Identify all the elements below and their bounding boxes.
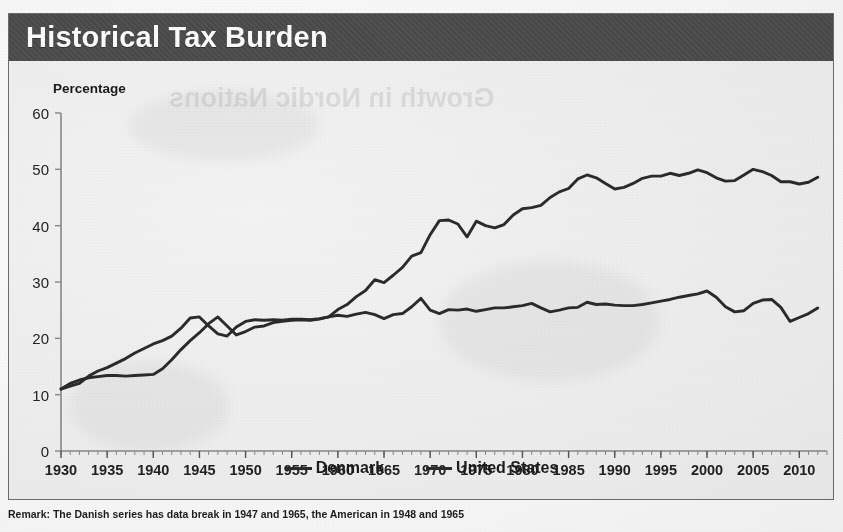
chart-title-bar: Historical Tax Burden [9,14,834,61]
legend-label-denmark: Denmark [316,459,384,477]
svg-text:30: 30 [32,274,49,291]
chart-figure: Historical Tax Burden Growth in Nordic N… [8,13,834,500]
svg-text:40: 40 [32,218,49,235]
legend-item-denmark: Denmark [286,459,384,477]
legend-swatch-denmark [286,467,312,470]
legend-label-united-states: United States [456,459,558,477]
legend-item-united-states: United States [426,459,558,477]
chart-legend: Denmark United States [9,459,834,477]
axes [61,113,827,451]
svg-text:50: 50 [32,161,49,178]
line-chart-svg: 0102030405060 19301935194019451950195519… [9,61,834,500]
screenshot-root: Historical Tax Burden Growth in Nordic N… [0,0,843,532]
svg-text:10: 10 [32,387,49,404]
page-title: Historical Tax Burden [9,21,328,54]
chart-remark-footnote: Remark: The Danish series has data break… [8,508,828,520]
y-axis-title: Percentage [53,81,126,96]
data-series-layer [61,169,818,389]
legend-swatch-united-states [426,467,452,470]
plot-area: Growth in Nordic Nations Percentage 0102… [9,61,834,500]
svg-text:0: 0 [41,443,49,460]
svg-text:60: 60 [32,105,49,122]
y-axis-ticks: 0102030405060 [32,105,61,460]
svg-text:20: 20 [32,330,49,347]
